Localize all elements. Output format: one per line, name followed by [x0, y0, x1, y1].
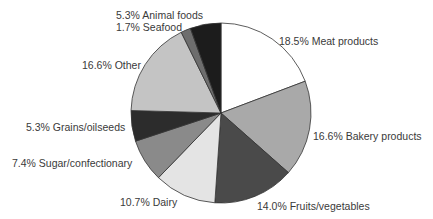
- label-grains-oilseeds: 5.3% Grains/oilseeds: [26, 121, 125, 133]
- label-other: 16.6% Other: [82, 59, 141, 71]
- label-sugar-confectionary: 7.4% Sugar/confectionary: [12, 157, 132, 169]
- label-seafood: 1.7% Seafood: [116, 21, 182, 33]
- label-animal-foods: 5.3% Animal foods: [116, 9, 203, 21]
- label-fruits-vegetables: 14.0% Fruits/vegetables: [257, 200, 370, 212]
- label-bakery-products: 16.6% Bakery products: [313, 130, 422, 142]
- pie-chart: [0, 0, 433, 219]
- label-meat-products: 18.5% Meat products: [279, 35, 378, 47]
- label-dairy: 10.7% Dairy: [120, 196, 177, 208]
